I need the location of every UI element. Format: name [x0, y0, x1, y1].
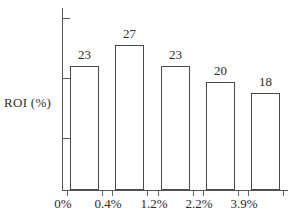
x-axis-line	[62, 190, 288, 191]
y-axis-tick	[63, 78, 70, 79]
y-axis-tick	[63, 138, 70, 139]
bar-value-label: 20	[195, 63, 246, 79]
x-axis-category-label: 0%	[42, 196, 84, 212]
y-axis-tick	[63, 18, 70, 19]
bar	[206, 82, 235, 190]
bar	[115, 45, 144, 190]
bar-value-label: 23	[150, 47, 201, 63]
y-axis-line	[62, 8, 63, 191]
bar-value-label: 27	[104, 26, 155, 42]
x-axis-category-label: 3.9%	[223, 196, 265, 212]
bar	[251, 93, 280, 190]
bar-value-label: 18	[240, 74, 291, 90]
bar	[70, 66, 99, 190]
x-axis-category-label: 1.2%	[133, 196, 175, 212]
y-axis-label: ROI (%)	[4, 95, 58, 111]
x-axis-tick	[283, 191, 284, 196]
x-axis-category-label: 0.4%	[87, 196, 129, 212]
bar	[161, 66, 190, 190]
bar-chart: ROI (%) 2327232018 0%0.4%1.2%2.2%3.9%	[0, 0, 293, 216]
bar-value-label: 23	[59, 47, 110, 63]
x-axis-category-label: 2.2%	[178, 196, 220, 212]
